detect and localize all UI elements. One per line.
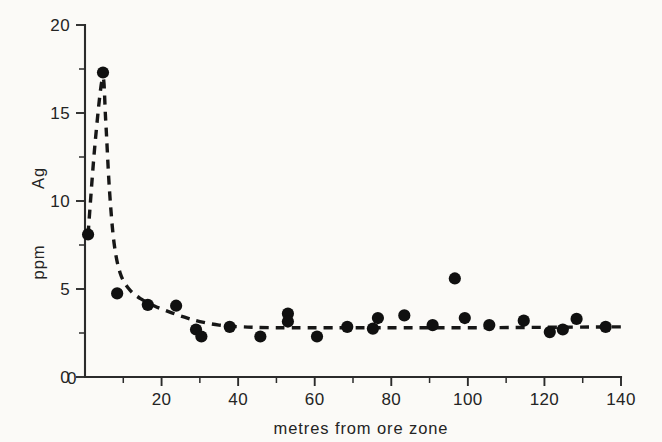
data-point [483,319,495,331]
data-point [372,312,384,324]
data-point [449,272,461,284]
fit-curve-group [88,77,621,327]
data-points-group [82,66,612,342]
y-axis-title-element: Ag [29,167,47,189]
data-point [170,300,182,312]
tick-labels-group: 05101520020406080100120140 [50,16,636,409]
data-point [398,309,410,321]
x-tick-label: 40 [228,390,248,409]
data-point [195,330,207,342]
x-tick-label: 140 [606,390,636,409]
data-point [254,330,266,342]
y-tick-label: 5 [60,280,70,299]
y-axis-title-unit: ppm [29,245,47,280]
data-point [311,330,323,342]
x-tick-label: 0 [67,369,77,388]
axes-group [85,25,621,377]
scatter-plot: 05101520020406080100120140 metres from o… [0,0,662,442]
x-tick-label: 80 [381,390,401,409]
data-point [459,312,471,324]
data-point [282,315,294,327]
y-tick-label: 15 [50,104,70,123]
data-point [142,299,154,311]
data-point [570,313,582,325]
y-tick-label: 10 [50,192,70,211]
data-point [82,228,94,240]
data-point [224,321,236,333]
x-tick-label: 100 [453,390,483,409]
data-point [367,323,379,335]
data-point [544,326,556,338]
x-tick-label: 120 [530,390,560,409]
x-axis-title: metres from ore zone [274,419,449,437]
data-point [341,321,353,333]
data-point [518,315,530,327]
axis-lines [85,25,621,377]
data-point [97,66,109,78]
fit-curve [88,77,621,327]
data-point [600,321,612,333]
data-point [111,287,123,299]
y-tick-label: 20 [50,16,70,35]
figure-container: 05101520020406080100120140 metres from o… [0,0,662,442]
data-point [557,323,569,335]
x-tick-label: 20 [152,390,172,409]
data-point [427,319,439,331]
x-tick-label: 60 [305,390,325,409]
